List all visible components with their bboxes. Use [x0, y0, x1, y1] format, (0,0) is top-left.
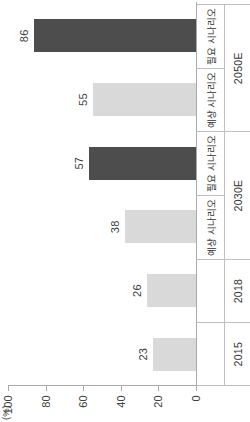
y-axis-tick-label: 40: [115, 395, 127, 408]
plot-area: 232638575586: [8, 4, 196, 386]
bar[interactable]: 38: [125, 210, 196, 243]
y-axis-tick: [196, 386, 197, 391]
bar[interactable]: 55: [93, 83, 196, 116]
bar-value-label: 57: [73, 157, 85, 170]
y-axis-tick-label: 0: [190, 395, 202, 401]
scenario-label-cell: [197, 259, 224, 323]
scenario-label-cell: 필요 시나리오: [197, 131, 224, 195]
year-label-cell: 2018: [224, 259, 250, 323]
bar[interactable]: 26: [147, 274, 196, 307]
y-axis-tick-label: 20: [152, 395, 164, 408]
bar[interactable]: 23: [153, 338, 196, 371]
y-axis-tick: [46, 386, 47, 391]
y-axis-tick-label: 60: [77, 395, 89, 408]
bar-chart-figure: (%) 020406080100 232638575586 예상 시나리오필요 …: [0, 0, 250, 422]
bar-value-label: 55: [77, 93, 89, 106]
y-axis-tick-label: 80: [40, 395, 52, 408]
bar-value-label: 86: [18, 29, 30, 42]
scenario-label-cell: 필요 시나리오: [197, 4, 224, 68]
rotated-figure-wrapper: (%) 020406080100 232638575586 예상 시나리오필요 …: [0, 0, 250, 422]
scenario-label-cell: 예상 시나리오: [197, 68, 224, 132]
y-axis-tick-label: 100: [2, 395, 14, 414]
year-label-cell: 2015: [224, 322, 250, 386]
scenario-label-row: 예상 시나리오필요 시나리오예상 시나리오필요 시나리오: [197, 2, 224, 386]
bar-value-label: 38: [109, 220, 121, 233]
bar[interactable]: 86: [34, 19, 196, 52]
year-label-cell: 2050E: [224, 4, 250, 131]
y-axis-tick: [158, 386, 159, 391]
category-label-table: 예상 시나리오필요 시나리오예상 시나리오필요 시나리오 20152018203…: [197, 2, 250, 386]
bar-value-label: 23: [137, 348, 149, 361]
year-label-row: 201520182030E2050E: [224, 2, 250, 386]
y-axis-tick: [83, 386, 84, 391]
y-axis-tick: [8, 386, 9, 391]
bar[interactable]: 57: [89, 147, 196, 180]
scenario-label-cell: 예상 시나리오: [197, 195, 224, 259]
year-label-cell: 2030E: [224, 131, 250, 258]
bar-value-label: 26: [131, 284, 143, 297]
scenario-label-cell: [197, 322, 224, 386]
y-axis-tick: [121, 386, 122, 391]
